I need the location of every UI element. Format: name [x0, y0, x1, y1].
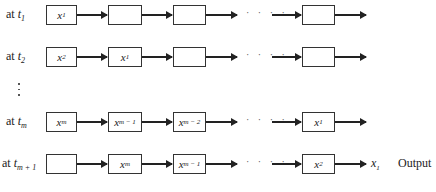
arrow-icon: [77, 163, 107, 165]
arrow-icon: [335, 14, 366, 16]
time-subscript: 2: [21, 56, 25, 65]
arrow-icon: [142, 163, 172, 165]
output-value: x1: [371, 156, 380, 172]
register-cell: x1: [302, 112, 335, 132]
arrow-icon: [142, 121, 172, 123]
time-label: at tm: [6, 114, 27, 130]
cell-subscript: 2: [62, 53, 66, 61]
cell-subscript: m − 2: [184, 118, 201, 126]
time-subscript: m + 1: [17, 163, 36, 172]
output-variable: x1: [371, 156, 380, 170]
arrow-icon: [206, 14, 237, 16]
register-cell: xm: [108, 154, 142, 174]
output-subscript: 1: [376, 164, 380, 172]
cell-subscript: m: [61, 118, 66, 126]
time-label: at t1: [6, 7, 25, 23]
horizontal-ellipsis: · · · ·: [246, 49, 288, 60]
time-prefix: at: [2, 156, 14, 170]
register-cell: [173, 5, 206, 25]
register-cell: [302, 47, 335, 67]
register-cell: xm − 2: [173, 112, 206, 132]
arrow-icon: [142, 56, 172, 58]
register-cell: x2: [46, 47, 77, 67]
time-prefix: at: [6, 7, 18, 21]
register-cell: [46, 154, 77, 174]
arrow-icon: [77, 56, 107, 58]
register-cell: x2: [302, 154, 335, 174]
vertical-ellipsis: [18, 83, 20, 100]
arrow-icon: [206, 163, 237, 165]
arrow-icon: [335, 121, 366, 123]
register-cell: [108, 5, 142, 25]
cell-subscript: m − 1: [184, 160, 201, 168]
time-subscript: 1: [21, 14, 25, 23]
arrow-icon: [335, 163, 366, 165]
arrow-icon: [206, 121, 237, 123]
time-prefix: at: [6, 49, 18, 63]
time-label: at t2: [6, 49, 25, 65]
register-cell: xm − 1: [173, 154, 206, 174]
register-cell: [173, 47, 206, 67]
register-cell: xm − 1: [108, 112, 142, 132]
cell-subscript: m: [125, 160, 130, 168]
arrow-icon: [77, 14, 107, 16]
time-prefix: at: [6, 114, 18, 128]
cell-subscript: m − 1: [119, 118, 136, 126]
cell-subscript: 1: [126, 53, 130, 61]
register-cell: x1: [46, 5, 77, 25]
arrow-icon: [142, 14, 172, 16]
cell-subscript: 2: [319, 160, 323, 168]
arrow-icon: [206, 56, 237, 58]
register-cell: [302, 5, 335, 25]
horizontal-ellipsis: · · · ·: [246, 156, 288, 167]
register-cell: x1: [108, 47, 142, 67]
horizontal-ellipsis: · · · ·: [246, 7, 288, 18]
cell-subscript: 1: [319, 118, 323, 126]
horizontal-ellipsis: · · · ·: [246, 114, 288, 125]
arrow-icon: [335, 56, 366, 58]
time-label: at tm + 1: [2, 156, 36, 172]
register-cell: xm: [46, 112, 77, 132]
time-subscript: m: [21, 121, 27, 130]
cell-subscript: 1: [62, 11, 66, 19]
output-label: Output: [398, 156, 431, 171]
arrow-icon: [77, 121, 107, 123]
